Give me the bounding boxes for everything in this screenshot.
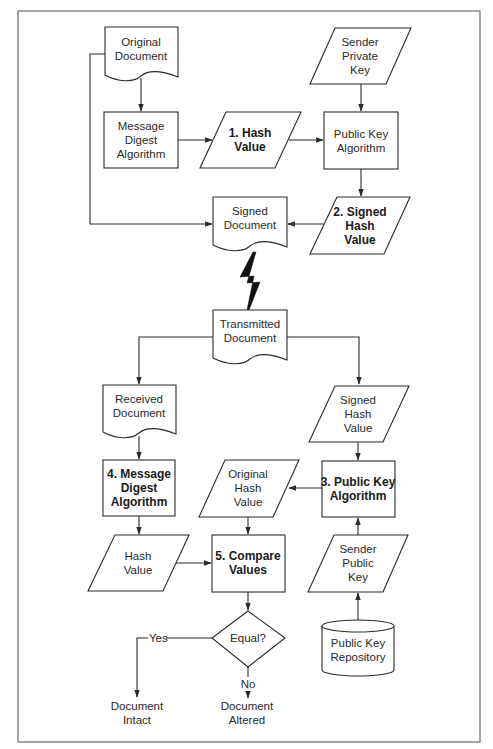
node-label-line: Algorithm [330, 489, 387, 503]
node-label-line: Key [350, 64, 370, 76]
node-label-line: 3. Public Key [321, 475, 396, 489]
node-label-line: Document [111, 700, 164, 712]
node-label-line: Equal? [230, 632, 266, 644]
node-label-line: Digest [121, 481, 158, 495]
node-label-line: Value [234, 496, 263, 508]
node-compare-values-5: 5. Compare Values [212, 535, 285, 592]
node-label-line: Value [344, 422, 373, 434]
node-label-line: Signed [340, 394, 376, 406]
node-label-line: 4. Message [107, 467, 171, 481]
node-label-line: Value [124, 564, 153, 576]
digital-signature-flowchart: Original Document Message Digest Algorit… [0, 0, 493, 749]
node-label-line: Document [115, 50, 168, 62]
node-label-line: Hash [235, 482, 262, 494]
node-label-line: Algorithm [111, 495, 168, 509]
node-label-line: Received [115, 393, 163, 405]
node-label-line: 5. Compare [215, 549, 281, 563]
node-label-line: Value [234, 140, 266, 154]
node-label-line: Public [342, 557, 374, 569]
node-label-line: Sender [339, 543, 376, 555]
node-public-key-repository: Public Key Repository [322, 620, 394, 676]
node-label-line: Public Key [334, 128, 389, 140]
node-message-digest-algorithm-4: 4. Message Digest Algorithm [103, 460, 175, 516]
node-label-line: Document [224, 219, 277, 231]
node-transmitted-document: Transmitted Document [213, 310, 287, 364]
node-label-line: Algorithm [337, 142, 386, 154]
node-label-line: Hash [125, 550, 152, 562]
node-label-line: Sender [341, 36, 378, 48]
node-label-line: Hash [345, 219, 374, 233]
node-label-line: Document [113, 407, 166, 419]
node-label-line: Values [229, 563, 267, 577]
node-public-key-algorithm-3: 3. Public Key Algorithm [321, 461, 396, 517]
node-received-document: Received Document [103, 385, 176, 438]
node-label-line: Message [118, 120, 165, 132]
node-label-line: Document [221, 700, 274, 712]
node-label-line: Repository [331, 651, 386, 663]
node-label-line: Public Key [331, 637, 386, 649]
node-label-line: 2. Signed [333, 205, 386, 219]
node-label-line: Original [121, 36, 161, 48]
node-label-line: Private [342, 50, 378, 62]
node-signed-document: Signed Document [213, 197, 287, 251]
node-label-line: Algorithm [117, 148, 166, 160]
node-label-line: Transmitted [220, 318, 280, 330]
node-label-line: Intact [123, 714, 152, 726]
node-label-line: Altered [229, 714, 265, 726]
node-original-document: Original Document [105, 27, 178, 81]
edge-label-yes: Yes [149, 632, 168, 644]
node-label-line: Digest [125, 134, 158, 146]
node-label-line: Signed [232, 205, 268, 217]
node-label-line: 1. Hash [229, 126, 272, 140]
node-label-line: Document [224, 332, 277, 344]
node-public-key-algorithm: Public Key Algorithm [324, 112, 398, 169]
node-message-digest-algorithm: Message Digest Algorithm [104, 112, 178, 168]
node-label-line: Value [344, 233, 376, 247]
node-label-line: Key [348, 571, 368, 583]
node-label-line: Hash [345, 408, 372, 420]
edge-label-no: No [241, 678, 256, 690]
node-label-line: Original [228, 468, 268, 480]
